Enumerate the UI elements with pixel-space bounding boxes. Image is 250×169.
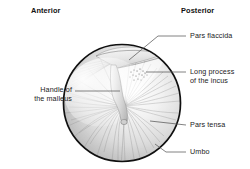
label-umbo: Umbo (190, 148, 210, 157)
header-posterior: Posterior (181, 6, 214, 15)
label-long-process-of-incus-line2: of the incus (190, 77, 228, 86)
label-handle-of-malleus-line2: the malleus (0, 95, 72, 104)
label-pars-tensa: Pars tensa (190, 121, 225, 130)
header-anterior: Anterior (31, 6, 61, 15)
label-pars-flaccida: Pars flaccida (190, 32, 232, 41)
diagram-canvas: Anterior Posterior Pars flaccida Long pr… (0, 0, 250, 169)
